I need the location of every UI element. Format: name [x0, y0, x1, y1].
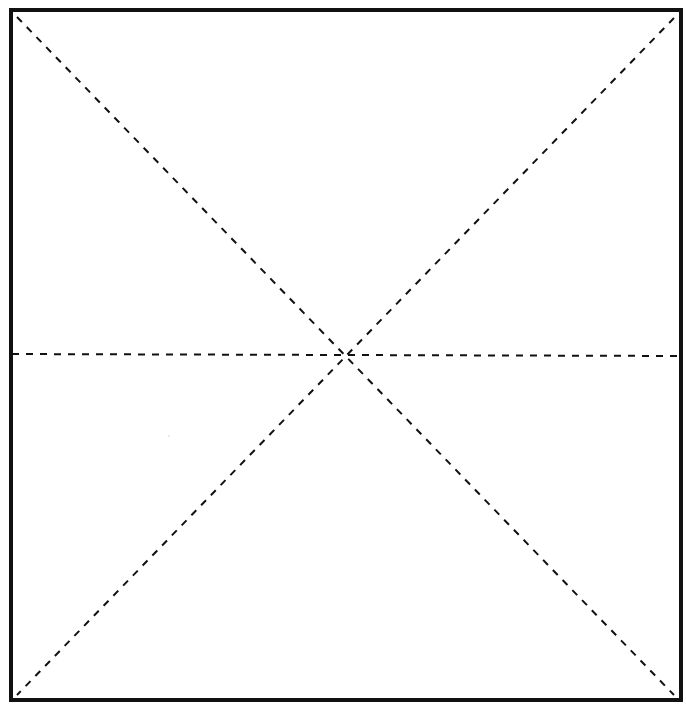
faint-speck [168, 435, 170, 437]
square-diagram [0, 0, 686, 712]
dashed-horizontal-midline [12, 354, 680, 356]
